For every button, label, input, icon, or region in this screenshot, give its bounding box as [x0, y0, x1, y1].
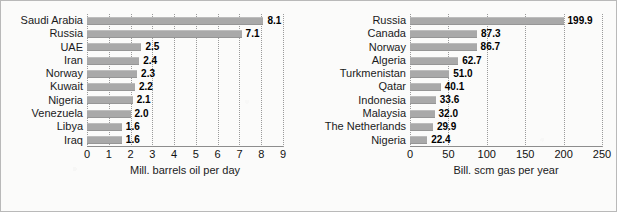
bar-row: 40.1	[410, 80, 602, 93]
x-tick-label: 5	[193, 148, 199, 160]
bar-row: 1.6	[87, 120, 283, 133]
x-axis-title-gas: Bill. scm gas per year	[410, 164, 602, 176]
bar-value-label: 7.1	[246, 29, 260, 39]
x-tick-label: 0	[84, 148, 90, 160]
bar	[87, 110, 131, 118]
bar-value-label: 2.3	[141, 69, 155, 79]
chart-panel-gas: RussiaCanadaNorwayAlgeriaTurkmenistanQat…	[309, 1, 616, 212]
bar-value-label: 32.0	[439, 109, 458, 119]
category-label: Venezuela	[5, 107, 83, 120]
bar-value-label: 51.0	[453, 69, 472, 79]
bar	[87, 17, 263, 25]
bar	[410, 96, 436, 104]
bar-row: 22.4	[410, 134, 602, 147]
x-tick-label: 7	[236, 148, 242, 160]
bar	[410, 30, 477, 38]
bar-row: 2.4	[87, 54, 283, 67]
bar	[410, 83, 441, 91]
gridline	[602, 14, 603, 147]
x-tick-label: 6	[215, 148, 221, 160]
x-tick-label: 3	[149, 148, 155, 160]
category-label: Nigeria	[5, 94, 83, 107]
bar-row: 2.2	[87, 80, 283, 93]
bar-row: 2.1	[87, 94, 283, 107]
category-label: UAE	[5, 41, 83, 54]
bar	[410, 136, 427, 144]
chart-panel-oil: Saudi ArabiaRussiaUAEIranNorwayKuwaitNig…	[1, 1, 309, 212]
bar-row: 7.1	[87, 27, 283, 40]
x-axis-line-gas	[410, 146, 602, 147]
category-label: Libya	[5, 120, 83, 133]
bar	[410, 110, 435, 118]
bar-row: 2.0	[87, 107, 283, 120]
bar-row: 51.0	[410, 67, 602, 80]
bar-value-label: 62.7	[462, 56, 481, 66]
category-label: Nigeria	[314, 134, 406, 147]
bar-row: 29.9	[410, 120, 602, 133]
bar-value-label: 2.4	[143, 56, 157, 66]
bar-value-label: 8.1	[267, 16, 281, 26]
category-label: Qatar	[314, 80, 406, 93]
category-label: Saudi Arabia	[5, 14, 83, 27]
plot-area-gas: 199.987.386.762.751.040.133.632.029.922.…	[410, 14, 602, 147]
category-label: Malaysia	[314, 107, 406, 120]
category-label: Algeria	[314, 54, 406, 67]
x-tick-label: 4	[171, 148, 177, 160]
bar	[87, 136, 122, 144]
bar-value-label: 29.9	[437, 122, 456, 132]
bar-value-label: 2.0	[135, 109, 149, 119]
x-axis-ticks-gas: 050100150200250	[410, 148, 602, 161]
bar	[87, 96, 133, 104]
x-tick-label: 0	[407, 148, 413, 160]
x-tick-label: 250	[593, 148, 611, 160]
category-label: Indonesia	[314, 94, 406, 107]
bar	[410, 17, 564, 25]
category-label: Kuwait	[5, 80, 83, 93]
bar-value-label: 87.3	[481, 29, 500, 39]
x-tick-label: 50	[442, 148, 454, 160]
category-label: Norway	[314, 41, 406, 54]
bar-row: 86.7	[410, 41, 602, 54]
gridline	[283, 14, 284, 147]
bars-gas: 199.987.386.762.751.040.133.632.029.922.…	[410, 14, 602, 147]
bar-value-label: 1.6	[126, 122, 140, 132]
category-labels-gas: RussiaCanadaNorwayAlgeriaTurkmenistanQat…	[314, 14, 406, 147]
x-tick-label: 1	[106, 148, 112, 160]
bar-value-label: 22.4	[431, 135, 450, 145]
x-tick-label: 200	[554, 148, 572, 160]
plot-area-oil: 8.17.12.52.42.32.22.12.01.61.6	[87, 14, 283, 147]
bar	[87, 123, 122, 131]
bar-row: 8.1	[87, 14, 283, 27]
bar	[410, 57, 458, 65]
category-labels-oil: Saudi ArabiaRussiaUAEIranNorwayKuwaitNig…	[5, 14, 83, 147]
bar-row: 2.3	[87, 67, 283, 80]
bars-oil: 8.17.12.52.42.32.22.12.01.61.6	[87, 14, 283, 147]
bar	[87, 43, 141, 51]
bar-value-label: 33.6	[440, 95, 459, 105]
bar	[410, 43, 477, 51]
bar-row: 1.6	[87, 134, 283, 147]
bar-row: 199.9	[410, 14, 602, 27]
bar-row: 87.3	[410, 27, 602, 40]
x-tick-label: 9	[280, 148, 286, 160]
x-tick-label: 100	[478, 148, 496, 160]
bar-value-label: 199.9	[568, 16, 593, 26]
bar-value-label: 2.2	[139, 82, 153, 92]
category-label: The Netherlands	[314, 120, 406, 133]
bar-value-label: 86.7	[481, 42, 500, 52]
category-label: Canada	[314, 27, 406, 40]
bar	[410, 70, 449, 78]
bar-value-label: 1.6	[126, 135, 140, 145]
x-axis-ticks-oil: 0123456789	[87, 148, 283, 161]
figure-container: Saudi ArabiaRussiaUAEIranNorwayKuwaitNig…	[0, 0, 617, 212]
bar-row: 62.7	[410, 54, 602, 67]
bar	[410, 123, 433, 131]
bar-value-label: 40.1	[445, 82, 464, 92]
category-label: Norway	[5, 67, 83, 80]
category-label: Russia	[5, 27, 83, 40]
bar	[87, 57, 139, 65]
x-axis-line-oil	[87, 146, 283, 147]
bar	[87, 83, 135, 91]
bar	[87, 30, 242, 38]
x-tick-label: 8	[258, 148, 264, 160]
